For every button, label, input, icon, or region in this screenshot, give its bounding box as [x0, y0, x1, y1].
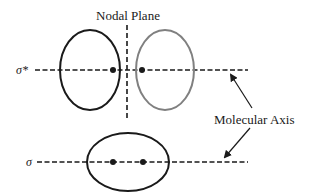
arrow-to-bonding-axis: [225, 128, 250, 157]
arrow-to-antibonding-axis: [231, 75, 252, 108]
antibonding-nucleus-left: [110, 67, 116, 73]
molecular-axis-label: Molecular Axis: [214, 112, 295, 127]
nodal-plane-label: Nodal Plane: [96, 8, 160, 23]
bonding-nucleus-right: [140, 159, 146, 165]
sigma-label: σ: [26, 155, 33, 169]
bonding-nucleus-left: [110, 159, 116, 165]
diagram-svg: Nodal Plane σ* Molecular Axis σ: [0, 0, 311, 195]
orbital-diagram: Nodal Plane σ* Molecular Axis σ: [0, 0, 311, 195]
antibonding-nucleus-right: [139, 67, 145, 73]
sigma-star-label: σ*: [16, 63, 28, 77]
